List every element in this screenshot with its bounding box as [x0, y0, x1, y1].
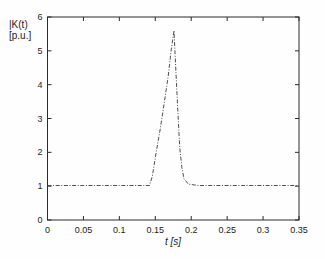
y-tick-label: 2 [37, 147, 42, 157]
plot-canvas: 00.050.10.150.20.250.30.350123456 [0, 0, 325, 259]
x-tick-label: 0.1 [113, 225, 126, 235]
x-tick-label: 0.25 [218, 225, 236, 235]
y-axis-label-line2: [p.u.] [9, 30, 31, 41]
x-tick-label: 0 [45, 225, 50, 235]
y-tick-label: 0 [37, 215, 42, 225]
plot-frame [48, 17, 300, 220]
x-tick-label: 0.15 [147, 225, 165, 235]
y-axis-label-line1: |K(t) [9, 19, 31, 30]
x-tick-label: 0.3 [257, 225, 270, 235]
k-factor-chart-figure: 00.050.10.150.20.250.30.350123456 |K(t) … [0, 0, 325, 259]
x-tick-label: 0.35 [290, 225, 308, 235]
y-axis-label: |K(t) [p.u.] [9, 19, 31, 41]
x-tick-label: 0.05 [75, 225, 93, 235]
y-tick-label: 5 [37, 46, 42, 56]
y-tick-label: 3 [37, 114, 42, 124]
k-factor-curve [48, 31, 300, 186]
x-axis-label: t [s] [47, 236, 299, 247]
y-tick-label: 1 [37, 181, 42, 191]
x-tick-label: 0.2 [185, 225, 198, 235]
y-tick-label: 6 [37, 12, 42, 22]
y-tick-label: 4 [37, 80, 42, 90]
